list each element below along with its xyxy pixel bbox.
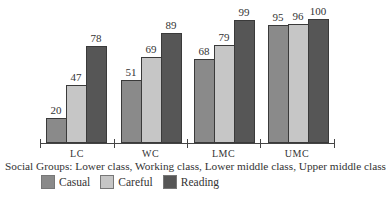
bar-reading-umc	[308, 19, 329, 143]
legend-item-reading: Reading	[163, 175, 219, 189]
legend-label: Reading	[181, 176, 219, 188]
bar-casual-lc	[46, 118, 67, 143]
legend: Casual Careful Reading	[41, 175, 229, 189]
bar-casual-lmc	[194, 59, 215, 143]
legend-item-casual: Casual	[41, 175, 90, 189]
data-label: 78	[81, 32, 111, 44]
category-label: LC	[47, 148, 107, 159]
category-label: UMC	[267, 148, 327, 159]
legend-label: Casual	[59, 176, 90, 188]
bar-reading-lmc	[234, 20, 255, 143]
bar-casual-wc	[121, 80, 142, 143]
legend-item-careful: Careful	[100, 175, 152, 189]
bar-careful-lmc	[214, 45, 235, 143]
x-axis-tick	[40, 139, 41, 148]
bar-careful-umc	[288, 24, 309, 143]
x-axis-tick	[187, 139, 188, 148]
category-label: WC	[121, 148, 181, 159]
bar-casual-umc	[268, 25, 289, 143]
data-label: 99	[229, 6, 259, 18]
x-axis-tick	[334, 139, 335, 148]
legend-swatch-casual	[41, 175, 55, 189]
legend-swatch-careful	[100, 175, 114, 189]
data-label: 89	[156, 19, 186, 31]
bar-reading-lc	[86, 46, 107, 143]
bar-careful-wc	[141, 57, 162, 143]
bar-careful-lc	[66, 85, 87, 143]
data-label: 100	[303, 5, 333, 17]
legend-label: Careful	[118, 176, 152, 188]
category-label: LMC	[194, 148, 254, 159]
legend-swatch-reading	[163, 175, 177, 189]
x-axis-label: Social Groups: Lower class, Working clas…	[0, 160, 378, 172]
x-axis-tick	[260, 139, 261, 148]
bar-reading-wc	[161, 33, 182, 143]
x-axis-tick	[114, 139, 115, 148]
